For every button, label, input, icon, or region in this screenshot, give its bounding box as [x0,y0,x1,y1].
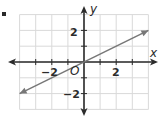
origin-label: O [70,64,79,78]
coordinate-plane: x y O −2 2 2 −2 [0,0,163,117]
y-tick-label-2: 2 [70,26,78,39]
x-axis-label: x [149,46,158,60]
y-axis-label: y [89,2,98,16]
x-tick-label-neg2: −2 [41,66,58,79]
y-tick-label-neg2: −2 [63,88,80,101]
x-tick-label-2: 2 [112,66,120,79]
tick-labels: x y O −2 2 2 −2 [41,2,158,101]
axes [8,6,158,116]
